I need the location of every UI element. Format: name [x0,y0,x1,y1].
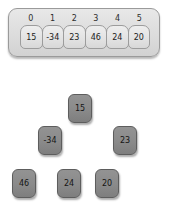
tree-node-leaf: 46 [12,169,36,198]
tree-node-leaf: 20 [95,169,119,198]
tree-node-left: -34 [38,126,62,155]
tree-node-right: 23 [113,126,137,155]
tree-node-leaf: 24 [57,169,81,198]
tree-diagram: 15 -34 23 46 24 20 [0,0,170,207]
tree-node-root: 15 [68,94,92,123]
